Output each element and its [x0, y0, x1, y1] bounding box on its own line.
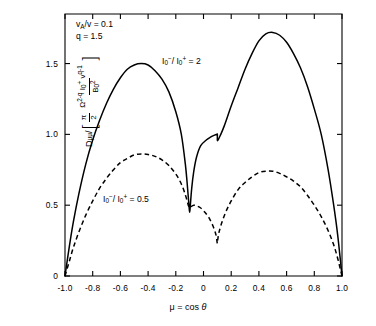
B-symbol: B [90, 87, 99, 92]
x-axis-eq: = cos [175, 302, 202, 312]
y-axis-ticks [65, 64, 342, 276]
solid-label-value: = 2 [186, 56, 201, 66]
I-superscript: + [76, 81, 83, 85]
fraction-numerator: Ω2-q I0+ vq-1 [77, 63, 88, 109]
figure-container: -1.0-0.8-0.6-0.4-0.200.20.40.60.81.0 00.… [0, 0, 376, 326]
x-tick-label: -0.8 [85, 283, 100, 293]
bracket-close-icon: ] [81, 56, 97, 61]
v-symbol: v [78, 75, 87, 79]
label-solid-curve: I0−/ I0+ = 2 [162, 55, 201, 66]
dashed-label-value: = 0.5 [127, 194, 149, 204]
x-tick-label: -1.0 [57, 283, 72, 293]
fraction-denominator: B02 [89, 78, 101, 94]
x-tick-label: 0.6 [280, 283, 292, 293]
y-axis-D: D [84, 140, 94, 147]
omega-symbol: Ω [78, 102, 87, 108]
B-superscript: 2 [89, 80, 96, 84]
curve-dashed-ratio-0p5 [65, 154, 342, 276]
omega-over-b-fraction: Ω2-q I0+ vq-1 B02 [77, 63, 100, 109]
v-exponent: q-1 [76, 65, 83, 74]
x-axis-tick-labels: -1.0-0.8-0.6-0.4-0.200.20.40.60.81.0 [57, 283, 348, 293]
y-tick-label: 1.5 [46, 59, 58, 69]
I-subscript: 0 [81, 85, 88, 89]
B-subscript: 0 [93, 84, 100, 88]
x-tick-label: 0.2 [225, 283, 237, 293]
x-tick-label: 0 [201, 283, 206, 293]
y-axis-slash: / [84, 130, 94, 133]
curve-solid-ratio-2 [65, 32, 342, 276]
bracket-open-icon: [ [81, 125, 97, 130]
x-axis-title: μ = cos θ [0, 302, 376, 312]
x-tick-label: -0.6 [113, 283, 128, 293]
y-axis-title: Dμμ / [ π 2 Ω2-q I0+ vq-1 B02 ] [72, 16, 106, 186]
x-axis-theta: θ [202, 302, 207, 312]
y-axis-D-sub: μμ [86, 133, 93, 140]
x-tick-label: 0.4 [253, 283, 265, 293]
omega-exponent: 2-q [76, 93, 83, 102]
plot-svg: -1.0-0.8-0.6-0.4-0.200.20.40.60.81.0 00.… [0, 0, 376, 326]
solid-label-slash: / I [172, 56, 179, 66]
y-tick-label: 0 [53, 271, 58, 281]
y-axis-tick-labels: 00.51.01.5 [46, 59, 58, 281]
label-dashed-curve: I0−/ I0+ = 0.5 [103, 193, 149, 204]
x-tick-label: -0.4 [140, 283, 155, 293]
y-tick-label: 1.0 [46, 129, 58, 139]
x-tick-label: 1.0 [336, 283, 348, 293]
axes-frame [65, 14, 342, 276]
pi-numerator: π [80, 113, 88, 123]
x-axis-ticks [65, 14, 342, 276]
x-tick-label: -0.2 [168, 283, 183, 293]
dashed-label-slash: / I [113, 194, 120, 204]
x-tick-label: 0.8 [308, 283, 320, 293]
pi-over-two-fraction: π 2 [80, 113, 98, 123]
I-symbol: I [78, 88, 87, 90]
y-tick-label: 0.5 [46, 200, 58, 210]
two-denominator: 2 [89, 113, 98, 121]
